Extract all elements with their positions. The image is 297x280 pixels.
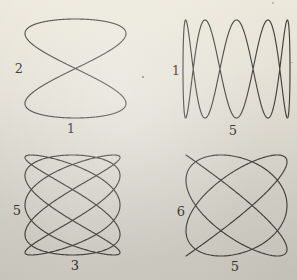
scan-speck xyxy=(291,62,293,63)
left-frequency-label: 6 xyxy=(174,204,188,219)
figure-bottom-right-6-5: 6 5 xyxy=(0,0,297,280)
bottom-frequency-label: 5 xyxy=(228,259,242,274)
lissajous-curve-6-5 xyxy=(184,153,289,258)
scan-speck xyxy=(142,76,144,78)
scan-speck xyxy=(272,2,274,4)
scanned-book-figure-page: 2 1 1 5 5 3 6 5 xyxy=(0,0,297,280)
